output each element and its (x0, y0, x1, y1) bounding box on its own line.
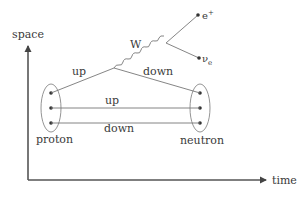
neutrino-line (166, 43, 199, 58)
time-axis-label: time (272, 174, 297, 187)
axes: space time (12, 28, 297, 187)
neutron-group: neutron (180, 84, 224, 147)
quark-lines: up down up down (51, 65, 200, 135)
neutrino-label: νe (202, 53, 212, 67)
neutrino-flavor: e (208, 59, 212, 67)
proton-label: proton (36, 133, 73, 146)
leptons: e+ νe (166, 9, 214, 67)
up-quark-label-1: up (72, 65, 86, 78)
neutron-label: neutron (180, 134, 224, 147)
down-quark-label-1: down (143, 65, 173, 78)
neutrino-dot (197, 56, 201, 60)
proton-group: proton (36, 84, 73, 146)
space-axis-label: space (12, 28, 44, 41)
feynman-diagram: space time proton neutron up down up dow… (0, 0, 304, 197)
down-quark-label-2: down (104, 122, 134, 135)
positron-charge: + (208, 9, 214, 17)
w-boson: W (114, 36, 164, 68)
positron-dot (196, 13, 200, 17)
positron-line (166, 15, 198, 43)
up-quark-label-2: up (105, 94, 119, 107)
w-boson-label: W (130, 38, 142, 51)
positron-label: e+ (202, 9, 214, 21)
